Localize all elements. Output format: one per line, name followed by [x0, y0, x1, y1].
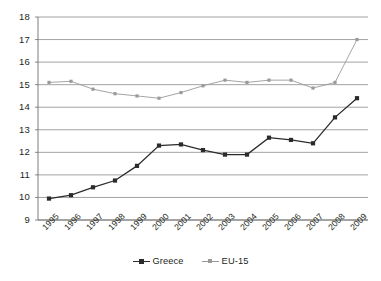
data-point-marker — [113, 92, 116, 95]
data-point-marker — [91, 88, 94, 91]
legend-item-greece[interactable]: Greece — [133, 256, 184, 266]
chart-legend: Greece EU-15 — [0, 256, 381, 266]
data-point-marker — [179, 142, 183, 146]
data-point-marker — [91, 185, 95, 189]
y-axis-tick-label: 11 — [8, 169, 30, 180]
data-point-marker — [47, 196, 51, 200]
legend-item-eu15[interactable]: EU-15 — [202, 256, 249, 266]
data-point-marker — [311, 86, 314, 89]
data-point-marker — [267, 136, 271, 140]
data-point-marker — [135, 94, 138, 97]
data-point-marker — [69, 193, 73, 197]
data-point-marker — [113, 178, 117, 182]
series-greece — [47, 96, 359, 201]
y-axis-tick-label: 9 — [8, 214, 30, 225]
plot-canvas — [0, 0, 381, 281]
legend-marker-greece-icon — [133, 257, 150, 265]
y-axis-tick-label: 15 — [8, 79, 30, 90]
data-point-marker — [333, 81, 336, 84]
data-point-marker — [69, 80, 72, 83]
data-point-marker — [333, 115, 337, 119]
data-point-marker — [223, 152, 227, 156]
legend-marker-eu15-icon — [202, 257, 219, 265]
y-axis-tick-label: 13 — [8, 124, 30, 135]
data-point-marker — [157, 97, 160, 100]
data-point-marker — [179, 91, 182, 94]
data-point-marker — [245, 152, 249, 156]
data-point-marker — [311, 141, 315, 145]
data-point-marker — [135, 164, 139, 168]
data-point-marker — [201, 148, 205, 152]
line-chart: 9101112131415161718 19951996199719981999… — [0, 0, 381, 281]
y-axis-tick-label: 10 — [8, 191, 30, 202]
data-point-marker — [201, 84, 204, 87]
y-axis-tick-label: 18 — [8, 11, 30, 22]
data-point-marker — [355, 96, 359, 100]
data-point-marker — [245, 81, 248, 84]
data-point-marker — [289, 138, 293, 142]
data-point-marker — [47, 81, 50, 84]
series-eu15 — [47, 38, 358, 100]
data-point-marker — [355, 38, 358, 41]
data-point-marker — [157, 143, 161, 147]
data-point-marker — [267, 79, 270, 82]
y-axis-tick-label: 12 — [8, 146, 30, 157]
data-point-marker — [223, 79, 226, 82]
legend-label-greece: Greece — [153, 256, 184, 266]
legend-label-eu15: EU-15 — [222, 256, 249, 266]
y-axis-tick-label: 17 — [8, 34, 30, 45]
data-point-marker — [289, 79, 292, 82]
y-axis-tick-label: 16 — [8, 56, 30, 67]
series-line — [49, 40, 357, 99]
y-axis-tick-label: 14 — [8, 101, 30, 112]
